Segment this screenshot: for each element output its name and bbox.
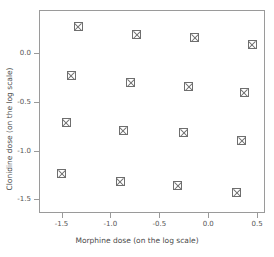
data-point xyxy=(132,30,141,39)
y-tick-mark xyxy=(34,102,39,103)
data-point xyxy=(237,136,246,145)
data-point xyxy=(74,22,83,31)
data-point xyxy=(119,126,128,135)
x-tick-mark xyxy=(257,213,258,218)
data-point xyxy=(173,181,182,190)
data-point xyxy=(57,169,66,178)
data-point xyxy=(67,71,76,80)
data-point xyxy=(179,128,188,137)
data-point xyxy=(126,78,135,87)
data-point xyxy=(190,33,199,42)
x-tick-label: -0.5 xyxy=(152,220,166,228)
x-tick-label: -1.0 xyxy=(104,220,118,228)
x-tick-label: -1.5 xyxy=(55,220,69,228)
data-point xyxy=(184,82,193,91)
y-tick-mark xyxy=(34,151,39,152)
x-tick-mark xyxy=(159,213,160,218)
x-tick-label: 0.0 xyxy=(203,220,214,228)
y-tick-mark xyxy=(34,199,39,200)
x-tick-mark xyxy=(62,213,63,218)
x-axis-title: Morphine dose (on the log scale) xyxy=(0,236,274,245)
x-tick-mark xyxy=(208,213,209,218)
data-point xyxy=(62,118,71,127)
x-tick-label: 0.5 xyxy=(252,220,263,228)
scatter-plot-figure: -1.5-1.0-0.50.00.5 0.0-0.5-1.0-1.5 Morph… xyxy=(0,0,274,257)
y-axis-title: Clonidine dose (on the log scale) xyxy=(2,0,16,257)
data-point xyxy=(248,40,257,49)
plot-area xyxy=(39,10,265,213)
data-point xyxy=(116,177,125,186)
y-axis-title-text: Clonidine dose (on the log scale) xyxy=(5,67,14,190)
y-tick-mark xyxy=(34,53,39,54)
x-tick-mark xyxy=(110,213,111,218)
data-point xyxy=(240,88,249,97)
data-point xyxy=(232,188,241,197)
